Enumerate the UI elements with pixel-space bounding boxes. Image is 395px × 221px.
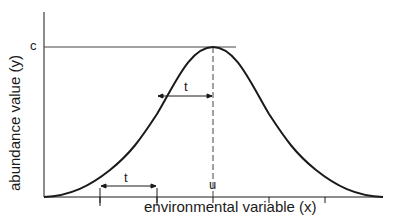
t-label-lower: t	[124, 170, 128, 185]
t-label-upper: t	[184, 79, 188, 94]
x-axis-label: environmental variable (x)	[144, 198, 317, 215]
u-label: u	[209, 177, 216, 192]
c-label: c	[30, 38, 37, 53]
gaussian-response-diagram: abundance value (y) environmental variab…	[0, 0, 395, 221]
diagram-canvas	[0, 0, 395, 221]
y-axis-label: abundance value (y)	[6, 55, 23, 191]
